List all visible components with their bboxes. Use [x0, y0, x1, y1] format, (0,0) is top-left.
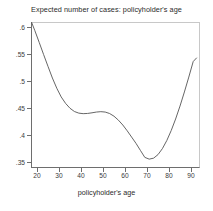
- x-tick-label: 70: [137, 172, 157, 179]
- x-tick-label: 30: [49, 172, 69, 179]
- y-tick-label: .45: [16, 105, 25, 112]
- x-tick-label: 40: [71, 172, 91, 179]
- x-tick-label: 50: [93, 172, 113, 179]
- y-tick-label: .35: [16, 159, 25, 166]
- y-tick-label: .6: [20, 24, 26, 31]
- y-axis-tick-labels: .6 .55 .5 .45 .4 .35: [0, 0, 25, 211]
- chart-figure: Expected number of cases: policyholder's…: [0, 0, 213, 211]
- y-tick-label: .55: [16, 51, 25, 58]
- x-tick-label: 80: [159, 172, 179, 179]
- x-tick-label: 90: [181, 172, 201, 179]
- chart-title: Expected number of cases: policyholder's…: [0, 5, 213, 14]
- plot-canvas: [31, 22, 200, 168]
- y-tick-label: .5: [20, 78, 26, 85]
- x-tick-label: 60: [115, 172, 135, 179]
- x-tick-label: 20: [27, 172, 47, 179]
- y-tick-label: .4: [20, 132, 26, 139]
- data-series-line: [32, 22, 197, 159]
- x-axis-label: policyholder's age: [0, 188, 213, 197]
